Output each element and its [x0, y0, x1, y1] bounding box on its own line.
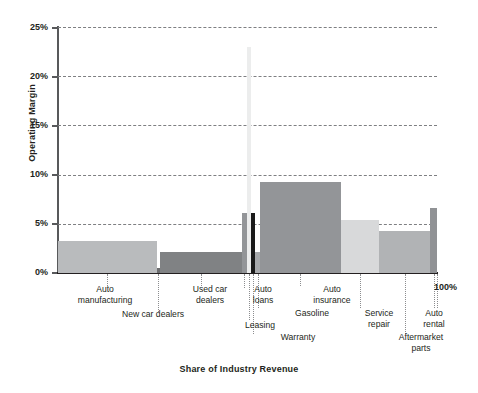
y-tick-label-25: 25% — [4, 22, 48, 32]
x-label-auto-manufacturing: Auto manufacturing — [60, 284, 150, 305]
bar-aftermarket-parts — [379, 231, 430, 273]
bar-auto-manufacturing — [58, 241, 157, 273]
x-label-aftermarket-parts: Aftermarket parts — [386, 332, 456, 353]
x-label-warranty: Warranty — [265, 332, 331, 343]
x-label-leasing: Leasing — [237, 320, 283, 331]
x-label-auto-insurance: Auto insurance — [300, 284, 364, 305]
bar-used-car-dealers — [160, 252, 241, 273]
x-label-service-repair: Service repair — [351, 308, 407, 329]
x-label-used-car-dealers: Used car dealers — [175, 284, 245, 305]
bar-auto-rental — [430, 208, 437, 273]
y-tick-label-10: 10% — [4, 169, 48, 179]
y-tick-label-5: 5% — [4, 218, 48, 228]
x-label-gasoline: Gasoline — [284, 308, 340, 319]
x-end-label: 100% — [434, 282, 457, 292]
x-label-auto-loans: Auto loans — [243, 284, 283, 305]
bar-auto-insurance — [260, 182, 341, 273]
bar-service-repair — [341, 220, 379, 273]
y-tick-label-20: 20% — [4, 71, 48, 81]
x-label-auto-rental: Auto rental — [411, 308, 457, 329]
y-tick-label-0: 0% — [4, 267, 48, 277]
gridline-25 — [58, 27, 437, 28]
y-tick-label-15: 15% — [4, 120, 48, 130]
leader-line-new-car-dealers — [158, 274, 159, 312]
plot-area — [58, 27, 437, 273]
operating-margin-marimekko-chart: Operating Margin 25% 20% 15% 10% 5% 0% 1… — [0, 0, 478, 393]
x-axis-title: Share of Industry Revenue — [0, 364, 478, 374]
x-label-new-car-dealers: New car dealers — [103, 309, 203, 320]
